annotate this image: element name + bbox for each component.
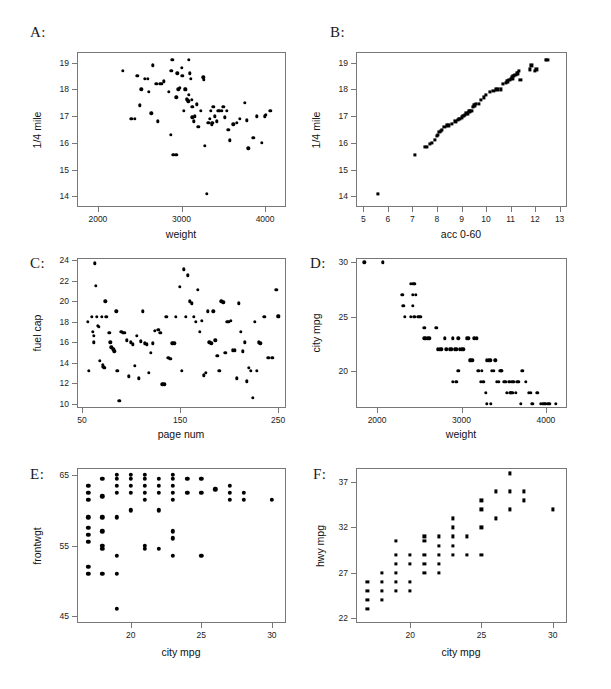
x-tick bbox=[82, 408, 83, 413]
x-tick-label: 13 bbox=[555, 214, 564, 224]
y-tick-label: 12 bbox=[37, 378, 69, 388]
y-axis-title-panel-a: 1/4 mile bbox=[31, 112, 43, 149]
x-tick bbox=[553, 623, 554, 628]
data-point bbox=[511, 77, 514, 80]
data-point bbox=[508, 490, 511, 493]
x-tick-label: 3000 bbox=[172, 214, 191, 224]
y-tick bbox=[351, 371, 356, 372]
y-tick-label: 15 bbox=[37, 165, 69, 175]
y-tick bbox=[72, 301, 77, 302]
data-point bbox=[437, 553, 440, 556]
plot-frame-panel-f bbox=[356, 468, 567, 623]
y-tick-label: 18 bbox=[37, 84, 69, 94]
data-point bbox=[409, 562, 412, 565]
x-tick bbox=[462, 207, 463, 212]
y-tick bbox=[351, 196, 356, 197]
y-tick bbox=[72, 281, 77, 282]
data-point bbox=[475, 103, 478, 106]
data-point bbox=[451, 544, 454, 547]
data-point bbox=[508, 472, 511, 475]
data-point bbox=[394, 571, 397, 574]
y-tick bbox=[351, 116, 356, 117]
data-point bbox=[499, 88, 502, 91]
x-tick bbox=[437, 207, 438, 212]
x-tick bbox=[462, 408, 463, 413]
x-tick bbox=[546, 408, 547, 413]
y-tick bbox=[351, 317, 356, 318]
data-point bbox=[480, 553, 483, 556]
x-axis-title-panel-a: weight bbox=[166, 228, 196, 240]
x-axis-title-panel-c: page num bbox=[158, 428, 205, 440]
x-axis-title-panel-e: city mpg bbox=[161, 646, 200, 658]
x-tick bbox=[412, 207, 413, 212]
y-tick bbox=[72, 170, 77, 171]
y-tick-label: 14 bbox=[37, 191, 69, 201]
x-tick bbox=[388, 207, 389, 212]
y-tick bbox=[72, 116, 77, 117]
data-point bbox=[423, 553, 426, 556]
x-tick bbox=[377, 408, 378, 413]
data-point bbox=[519, 78, 522, 81]
data-point bbox=[508, 508, 511, 511]
data-point bbox=[433, 139, 436, 142]
y-tick-label: 19 bbox=[316, 58, 348, 68]
y-tick-label: 24 bbox=[37, 255, 69, 265]
y-axis-title-panel-d: city mpg bbox=[310, 313, 322, 352]
y-tick bbox=[351, 482, 356, 483]
x-tick-label: 25 bbox=[197, 630, 206, 640]
x-tick-label: 5 bbox=[361, 214, 366, 224]
data-point bbox=[494, 490, 497, 493]
data-point bbox=[451, 553, 454, 556]
y-tick bbox=[351, 89, 356, 90]
x-tick bbox=[201, 623, 202, 628]
y-tick bbox=[72, 616, 77, 617]
data-point bbox=[480, 526, 483, 529]
y-tick bbox=[351, 63, 356, 64]
y-tick bbox=[351, 527, 356, 528]
data-point bbox=[551, 508, 554, 511]
x-axis-title-panel-b: acc 0-60 bbox=[441, 228, 481, 240]
x-tick-label: 9 bbox=[459, 214, 464, 224]
data-point bbox=[366, 589, 369, 592]
data-point bbox=[437, 562, 440, 565]
y-tick bbox=[72, 342, 77, 343]
x-tick bbox=[410, 623, 411, 628]
x-tick bbox=[131, 623, 132, 628]
data-point bbox=[466, 553, 469, 556]
data-point bbox=[523, 490, 526, 493]
y-tick bbox=[72, 89, 77, 90]
x-tick-label: 12 bbox=[530, 214, 539, 224]
y-tick-label: 15 bbox=[316, 165, 348, 175]
data-point bbox=[409, 589, 412, 592]
plot-frame-panel-e bbox=[77, 468, 286, 623]
data-point bbox=[366, 580, 369, 583]
data-point bbox=[413, 153, 416, 156]
data-point bbox=[451, 535, 454, 538]
y-tick-label: 10 bbox=[37, 399, 69, 409]
y-tick-label: 30 bbox=[316, 257, 348, 267]
x-tick bbox=[98, 207, 99, 212]
data-point bbox=[394, 539, 397, 542]
y-axis-title-panel-e: frontwgt bbox=[31, 527, 43, 564]
x-tick-label: 4000 bbox=[536, 415, 555, 425]
y-tick-label: 22 bbox=[37, 276, 69, 286]
y-tick-label: 19 bbox=[37, 58, 69, 68]
data-point bbox=[423, 571, 426, 574]
x-tick-label: 4000 bbox=[256, 214, 275, 224]
x-tick bbox=[511, 207, 512, 212]
y-tick bbox=[351, 262, 356, 263]
data-point bbox=[437, 535, 440, 538]
data-point bbox=[380, 589, 383, 592]
data-point bbox=[494, 517, 497, 520]
x-tick-label: 30 bbox=[267, 630, 276, 640]
x-tick-label: 25 bbox=[477, 630, 486, 640]
data-point bbox=[440, 128, 443, 131]
data-point bbox=[437, 544, 440, 547]
panel-letter-panel-a: A: bbox=[30, 24, 46, 41]
data-point bbox=[546, 58, 549, 61]
y-axis-title-panel-f: hwy mpg bbox=[314, 525, 326, 567]
y-tick-label: 14 bbox=[316, 191, 348, 201]
x-tick-label: 2000 bbox=[88, 214, 107, 224]
data-point bbox=[380, 580, 383, 583]
data-point bbox=[530, 64, 533, 67]
